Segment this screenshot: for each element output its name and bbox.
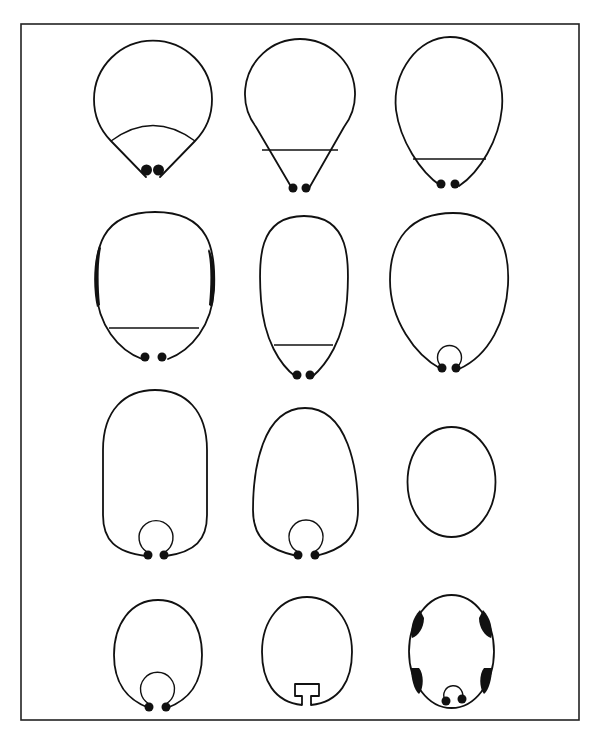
basal-dot	[438, 364, 447, 373]
lateral-thickening	[94, 246, 101, 307]
panel-8-shape	[253, 408, 358, 560]
basal-dot	[141, 165, 152, 176]
panel-1-shape	[94, 41, 212, 177]
lateral-thickening	[479, 610, 492, 638]
panel-7-shape	[103, 390, 207, 560]
basal-dot	[306, 371, 315, 380]
panel-2-shape	[245, 39, 355, 193]
figure-canvas	[0, 0, 599, 729]
panel-3-shape	[396, 37, 503, 189]
panel-4-shape	[94, 212, 214, 362]
basal-dot	[160, 551, 169, 560]
basal-dot	[162, 703, 171, 712]
basal-dot	[442, 697, 451, 706]
lateral-thickening	[411, 668, 423, 694]
panel-9-shape	[408, 427, 496, 537]
basal-dot	[158, 353, 167, 362]
basal-dot	[145, 703, 154, 712]
basal-dot	[289, 184, 298, 193]
panel-10-shape	[114, 600, 202, 712]
basal-dot	[437, 180, 446, 189]
panel-11-shape	[262, 597, 352, 705]
basal-dot	[458, 695, 467, 704]
basal-dot	[153, 165, 164, 176]
panel-5-shape	[260, 216, 348, 380]
lateral-thickening	[480, 668, 492, 694]
basal-dot	[451, 180, 460, 189]
basal-dot	[141, 353, 150, 362]
basal-dot	[294, 551, 303, 560]
panel-12-shape	[409, 595, 494, 708]
basal-dot	[452, 364, 461, 373]
basal-dot	[311, 551, 320, 560]
panel-6-shape	[390, 213, 508, 373]
basal-dot	[144, 551, 153, 560]
lateral-thickening	[411, 610, 424, 638]
basal-dot	[293, 371, 302, 380]
basal-dot	[302, 184, 311, 193]
